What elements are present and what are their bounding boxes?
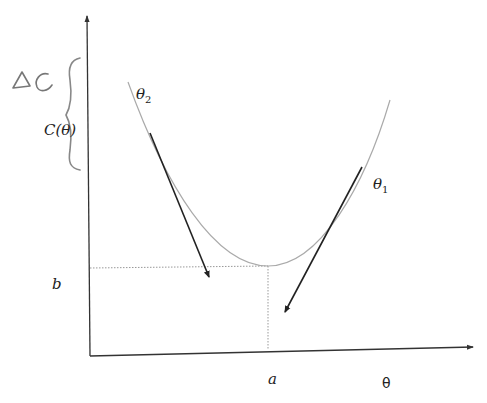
x-axis-label: θ xyxy=(382,376,391,390)
theta-2-subscript: 2 xyxy=(145,94,151,105)
min-x-label: a xyxy=(268,372,277,387)
cost-curve-diagram: C(θ) θ a b θ2 θ1 xyxy=(0,0,487,403)
delta-c-handwriting xyxy=(13,72,52,91)
theta-1-label: θ1 xyxy=(373,177,388,195)
theta-2-symbol: θ xyxy=(136,85,145,103)
y-axis xyxy=(87,16,90,356)
y-axis-label: C(θ) xyxy=(44,123,76,138)
min-y-label: b xyxy=(52,277,62,292)
min-horizontal-guide xyxy=(90,266,268,268)
theta-1-symbol: θ xyxy=(373,175,382,193)
theta-1-gradient-arrow xyxy=(285,167,362,312)
theta-1-subscript: 1 xyxy=(382,184,388,195)
delta-c-brace xyxy=(66,58,80,170)
theta-2-gradient-arrow xyxy=(150,133,209,277)
x-axis xyxy=(90,347,473,356)
theta-2-label: θ2 xyxy=(136,87,151,105)
diagram-canvas xyxy=(0,0,487,403)
